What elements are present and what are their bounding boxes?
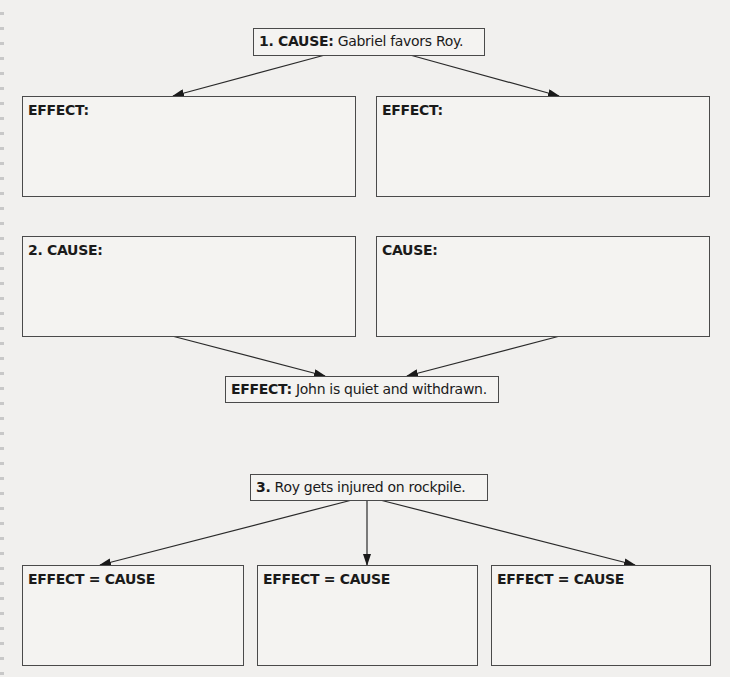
effect-1-right-label: EFFECT: — [382, 102, 443, 119]
cause-1-box: 1. CAUSE: Gabriel favors Roy. — [253, 28, 485, 56]
arrow-cause3-to-effect-c — [380, 500, 635, 565]
cause-2-left-label: 2. CAUSE: — [28, 242, 103, 259]
cause-3-box: 3. Roy gets injured on rockpile. — [250, 474, 488, 501]
effect-3-c-label: EFFECT = CAUSE — [497, 571, 624, 588]
effect-1-right-box[interactable]: EFFECT: — [376, 96, 710, 197]
cause-2-left-box[interactable]: 2. CAUSE: — [22, 236, 356, 337]
arrow-cause3-to-effect-a — [100, 500, 352, 565]
cause-3-text: Roy gets injured on rockpile. — [270, 479, 465, 495]
arrow-cause2-right-to-effect2 — [407, 336, 560, 376]
arrow-cause1-to-effect-right — [410, 55, 559, 96]
arrow-cause2-left-to-effect2 — [172, 336, 325, 376]
effect-1-left-label: EFFECT: — [28, 102, 89, 119]
effect-2-text: John is quiet and withdrawn. — [292, 381, 487, 397]
cause-3-label: 3. — [256, 479, 270, 495]
effect-3-a-box[interactable]: EFFECT = CAUSE — [22, 565, 244, 666]
effect-3-c-box[interactable]: EFFECT = CAUSE — [491, 565, 711, 666]
effect-3-a-label: EFFECT = CAUSE — [28, 571, 155, 588]
effect-3-b-box[interactable]: EFFECT = CAUSE — [257, 565, 478, 666]
arrow-cause1-to-effect-left — [173, 55, 325, 96]
effect-1-left-box[interactable]: EFFECT: — [22, 96, 356, 197]
effect-2-label: EFFECT: — [231, 381, 292, 397]
cause-1-label: 1. CAUSE: — [259, 33, 334, 49]
effect-2-box: EFFECT: John is quiet and withdrawn. — [225, 376, 499, 403]
cause-2-right-box[interactable]: CAUSE: — [376, 236, 710, 337]
cause-2-right-label: CAUSE: — [382, 242, 438, 259]
effect-3-b-label: EFFECT = CAUSE — [263, 571, 390, 588]
cause-1-text: Gabriel favors Roy. — [334, 33, 464, 49]
